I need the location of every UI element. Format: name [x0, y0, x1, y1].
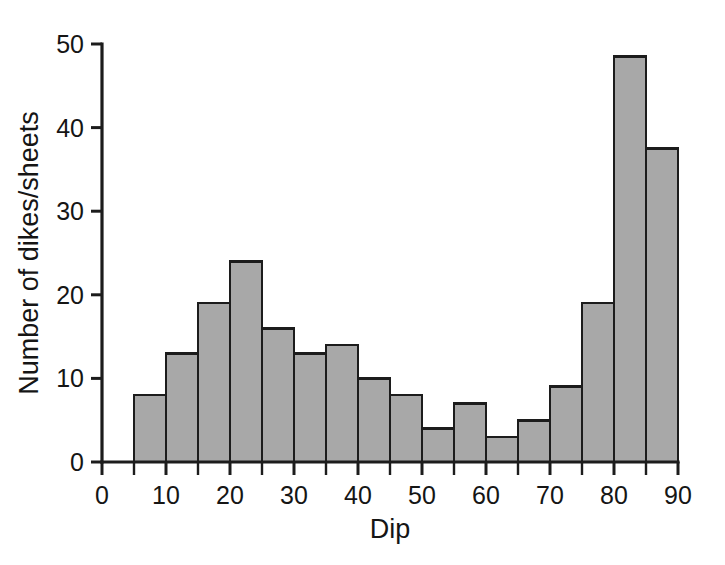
y-axis-tick-label: 30 — [56, 197, 84, 225]
x-axis-tick-label: 10 — [152, 481, 180, 509]
y-axis-tick-label: 0 — [70, 448, 84, 476]
histogram-bar — [358, 378, 390, 462]
x-axis-tick-label: 80 — [600, 481, 628, 509]
histogram-bar — [550, 387, 582, 462]
histogram-bar — [294, 353, 326, 462]
x-axis-tick-label: 0 — [95, 481, 109, 509]
histogram-bar — [166, 353, 198, 462]
histogram-bar — [326, 345, 358, 462]
x-axis-tick-label: 60 — [472, 481, 500, 509]
histogram-bar — [486, 437, 518, 462]
histogram-bar — [390, 395, 422, 462]
histogram-bar — [134, 395, 166, 462]
x-axis-tick-label: 30 — [280, 481, 308, 509]
x-axis-tick-label: 70 — [536, 481, 564, 509]
histogram-figure: Dip Number of dikes/sheets 0102030405001… — [0, 0, 725, 565]
y-axis-tick-label: 50 — [56, 30, 84, 58]
x-axis-tick-label: 90 — [664, 481, 692, 509]
histogram-bar — [262, 328, 294, 462]
histogram-bar — [422, 429, 454, 462]
y-axis-tick-label: 20 — [56, 281, 84, 309]
x-axis-tick-label: 50 — [408, 481, 436, 509]
y-axis-tick-label: 10 — [56, 364, 84, 392]
x-axis-tick-label: 40 — [344, 481, 372, 509]
histogram-bar — [198, 303, 230, 462]
histogram-bar — [646, 149, 678, 463]
x-axis-tick-label: 20 — [216, 481, 244, 509]
x-axis-label: Dip — [370, 514, 411, 544]
histogram-bar — [614, 57, 646, 462]
histogram-bar — [454, 403, 486, 462]
histogram-bar — [582, 303, 614, 462]
histogram-bar — [230, 261, 262, 462]
chart-canvas: Dip Number of dikes/sheets 0102030405001… — [0, 0, 725, 565]
y-axis-label: Number of dikes/sheets — [14, 111, 44, 395]
y-axis-tick-label: 40 — [56, 114, 84, 142]
histogram-bar — [518, 420, 550, 462]
